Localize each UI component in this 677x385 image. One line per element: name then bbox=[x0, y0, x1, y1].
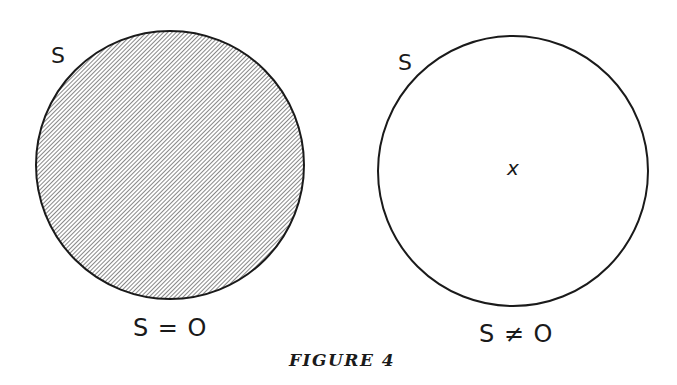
right-caption-equation: S ≠ O bbox=[479, 322, 554, 346]
element-x-label: x bbox=[507, 158, 519, 178]
left-caption-equation: S = O bbox=[133, 316, 208, 340]
left-set-label: S bbox=[51, 45, 65, 67]
venn-diagrams bbox=[0, 0, 677, 385]
right-set-label: S bbox=[398, 52, 412, 74]
left-set-circle-shaded bbox=[36, 31, 304, 299]
figure-caption: FIGURE 4 bbox=[289, 352, 395, 369]
